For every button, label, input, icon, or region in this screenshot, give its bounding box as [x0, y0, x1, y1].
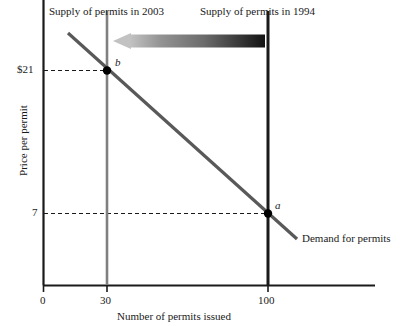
supply-1994-label: Supply of permits in 1994 — [200, 6, 315, 17]
x-tick-label-0: 0 — [40, 295, 46, 306]
permits-market-chart: Supply of permits in 2003 Supply of perm… — [0, 0, 406, 326]
y-tick-label-21: $21 — [17, 64, 34, 75]
demand-label: Demand for permits — [302, 233, 391, 244]
supply-2003-label: Supply of permits in 2003 — [49, 6, 164, 17]
x-tick-label-30: 30 — [100, 295, 111, 306]
x-tick-label-100: 100 — [258, 295, 275, 306]
point-marker-b — [103, 66, 111, 74]
y-tick-label-7: 7 — [32, 207, 38, 218]
y-axis-title: Price per permit — [18, 93, 29, 189]
point-label-a: a — [275, 200, 281, 211]
point-label-b: b — [115, 57, 121, 68]
chart-canvas — [0, 0, 406, 326]
point-marker-a — [264, 209, 272, 217]
demand-curve-line — [68, 33, 297, 239]
shift-arrow — [113, 33, 265, 49]
x-axis-title: Number of permits issued — [117, 311, 231, 322]
